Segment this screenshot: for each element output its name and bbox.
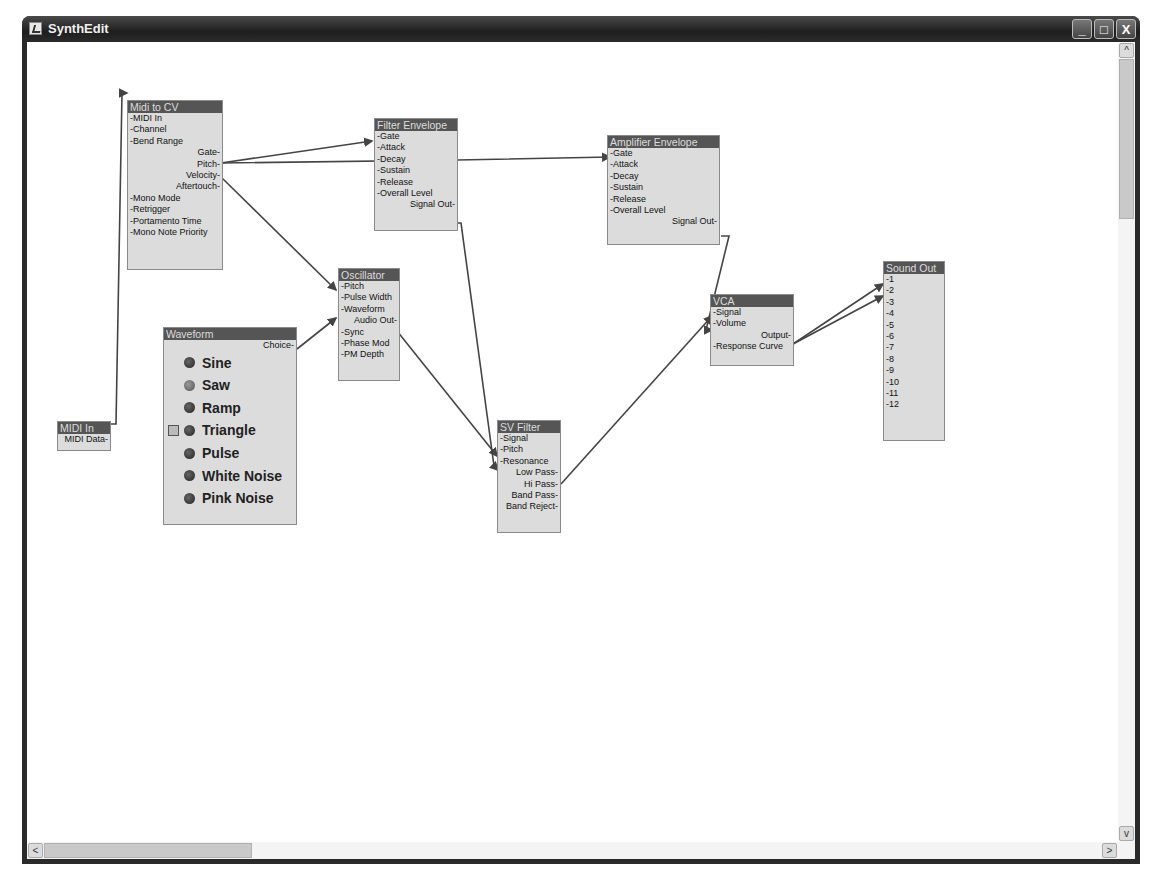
title-bar[interactable]: SynthEdit _ □ X (22, 16, 1140, 42)
module-title[interactable]: Midi to CV (128, 101, 222, 113)
module-waveform[interactable]: Waveform Choice Sine Saw Ramp Triangle P… (163, 327, 297, 525)
module-title[interactable]: MIDI In (58, 422, 110, 434)
horizontal-scroll-thumb[interactable] (44, 843, 252, 858)
pin-audio-out[interactable]: Audio Out (339, 315, 399, 326)
module-title[interactable]: Filter Envelope (375, 119, 457, 131)
pin-midi-data[interactable]: MIDI Data (58, 434, 110, 445)
waveform-option-pulse[interactable]: Pulse (164, 442, 296, 465)
pin-decay[interactable]: Decay (608, 171, 719, 182)
pin-volume[interactable]: Volume (711, 318, 793, 329)
pin-pitch[interactable]: Pitch (498, 444, 560, 455)
pin-pulse-width[interactable]: Pulse Width (339, 292, 399, 303)
pin-attack[interactable]: Attack (375, 142, 457, 153)
pin-out-8[interactable]: 8 (884, 354, 944, 365)
scroll-left-button[interactable]: < (28, 843, 43, 858)
pin-decay[interactable]: Decay (375, 154, 457, 165)
pin-signal-out[interactable]: Signal Out (608, 216, 719, 227)
pin-mono-note-priority[interactable]: Mono Note Priority (128, 227, 222, 238)
module-vca[interactable]: VCA Signal Volume Output Response Curve (710, 294, 794, 366)
waveform-option-sine[interactable]: Sine (164, 351, 296, 374)
waveform-option-saw[interactable]: Saw (164, 374, 296, 397)
pin-portamento-time[interactable]: Portamento Time (128, 216, 222, 227)
pin-attack[interactable]: Attack (608, 159, 719, 170)
module-title[interactable]: Waveform (164, 328, 296, 340)
pin-signal-out[interactable]: Signal Out (375, 199, 457, 210)
pin-mono-mode[interactable]: Mono Mode (128, 193, 222, 204)
module-title[interactable]: SV Filter (498, 421, 560, 433)
module-filter-envelope[interactable]: Filter Envelope Gate Attack Decay Sustai… (374, 118, 458, 231)
waveform-option-white-noise[interactable]: White Noise (164, 464, 296, 487)
pin-overall-level[interactable]: Overall Level (608, 205, 719, 216)
pin-out-7[interactable]: 7 (884, 342, 944, 353)
waveform-option-pink-noise[interactable]: Pink Noise (164, 487, 296, 510)
pin-release[interactable]: Release (608, 194, 719, 205)
module-amplifier-envelope[interactable]: Amplifier Envelope Gate Attack Decay Sus… (607, 135, 720, 245)
vertical-scroll-thumb[interactable] (1119, 59, 1134, 219)
module-title[interactable]: Sound Out (884, 262, 944, 274)
horizontal-scrollbar[interactable]: < > (27, 842, 1118, 859)
pin-out-6[interactable]: 6 (884, 331, 944, 342)
pin-out-3[interactable]: 3 (884, 297, 944, 308)
pin-response-curve[interactable]: Response Curve (711, 341, 793, 352)
radio-led-icon (184, 470, 195, 481)
module-midi-to-cv[interactable]: Midi to CV MIDI In Channel Bend Range Ga… (127, 100, 223, 270)
vertical-scrollbar[interactable]: ^ v (1118, 42, 1135, 842)
module-sv-filter[interactable]: SV Filter Signal Pitch Resonance Low Pas… (497, 420, 561, 533)
module-sound-out[interactable]: Sound Out 1 2 3 4 5 6 7 8 9 10 11 12 (883, 261, 945, 441)
minimize-button[interactable]: _ (1072, 19, 1092, 39)
pin-release[interactable]: Release (375, 177, 457, 188)
pin-out-1[interactable]: 1 (884, 274, 944, 285)
synthedit-window: SynthEdit _ □ X (22, 16, 1140, 864)
pin-out-11[interactable]: 11 (884, 388, 944, 399)
pin-sustain[interactable]: Sustain (608, 182, 719, 193)
pin-signal[interactable]: Signal (711, 307, 793, 318)
maximize-button[interactable]: □ (1094, 19, 1114, 39)
module-title[interactable]: Oscillator (339, 269, 399, 281)
module-title[interactable]: VCA (711, 295, 793, 307)
window-title: SynthEdit (48, 21, 109, 36)
waveform-option-ramp[interactable]: Ramp (164, 397, 296, 420)
pin-resonance[interactable]: Resonance (498, 456, 560, 467)
pin-pitch[interactable]: Pitch (339, 281, 399, 292)
scroll-down-button[interactable]: v (1119, 826, 1134, 841)
pin-pitch[interactable]: Pitch (128, 159, 222, 170)
pin-phase-mod[interactable]: Phase Mod (339, 338, 399, 349)
pin-gate[interactable]: Gate (128, 147, 222, 158)
pin-out-4[interactable]: 4 (884, 308, 944, 319)
pin-gate[interactable]: Gate (608, 148, 719, 159)
patch-canvas[interactable]: MIDI In MIDI Data Midi to CV MIDI In Cha… (27, 42, 1118, 842)
pin-gate[interactable]: Gate (375, 131, 457, 142)
pin-overall-level[interactable]: Overall Level (375, 188, 457, 199)
scroll-right-button[interactable]: > (1102, 843, 1117, 858)
pin-midi-in[interactable]: MIDI In (128, 113, 222, 124)
waveform-option-triangle[interactable]: Triangle (164, 419, 296, 442)
pin-out-5[interactable]: 5 (884, 320, 944, 331)
pin-sync[interactable]: Sync (339, 327, 399, 338)
pin-pm-depth[interactable]: PM Depth (339, 349, 399, 360)
pin-signal[interactable]: Signal (498, 433, 560, 444)
close-button[interactable]: X (1116, 19, 1136, 39)
pin-sustain[interactable]: Sustain (375, 165, 457, 176)
pin-out-9[interactable]: 9 (884, 365, 944, 376)
pin-out-2[interactable]: 2 (884, 285, 944, 296)
module-title[interactable]: Amplifier Envelope (608, 136, 719, 148)
scroll-up-button[interactable]: ^ (1119, 43, 1134, 58)
module-oscillator[interactable]: Oscillator Pitch Pulse Width Waveform Au… (338, 268, 400, 381)
pin-output[interactable]: Output (711, 330, 793, 341)
pin-channel[interactable]: Channel (128, 124, 222, 135)
pin-band-reject[interactable]: Band Reject (498, 501, 560, 512)
pin-velocity[interactable]: Velocity (128, 170, 222, 181)
pin-band-pass[interactable]: Band Pass (498, 490, 560, 501)
wire-gate-filter (221, 141, 372, 163)
pin-bend-range[interactable]: Bend Range (128, 136, 222, 147)
module-midi-in[interactable]: MIDI In MIDI Data (57, 421, 111, 451)
selection-box-icon (168, 425, 179, 436)
pin-retrigger[interactable]: Retrigger (128, 204, 222, 215)
pin-aftertouch[interactable]: Aftertouch (128, 181, 222, 192)
pin-hi-pass[interactable]: Hi Pass (498, 479, 560, 490)
pin-waveform[interactable]: Waveform (339, 304, 399, 315)
pin-choice[interactable]: Choice (164, 340, 296, 351)
pin-out-10[interactable]: 10 (884, 377, 944, 388)
pin-out-12[interactable]: 12 (884, 399, 944, 410)
pin-low-pass[interactable]: Low Pass (498, 467, 560, 478)
